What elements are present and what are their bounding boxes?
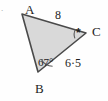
vertex-label-b: B: [35, 82, 44, 95]
figure-corner-mark: .: [1, 4, 3, 13]
vertex-label-c: C: [92, 25, 101, 38]
side-length-label-bc: 6·5: [65, 57, 81, 69]
angle-measure-label-b: 67°: [38, 57, 53, 68]
angle-asterisk-mark-c: *: [76, 27, 81, 39]
vertex-label-a: A: [25, 3, 34, 16]
triangle-diagram: [0, 0, 108, 101]
geometry-figure: . A B C 8 6·5 67° *: [0, 0, 108, 101]
side-length-label-ac: 8: [55, 9, 61, 21]
